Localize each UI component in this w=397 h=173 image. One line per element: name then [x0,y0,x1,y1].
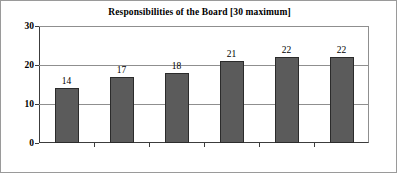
bar-chart-figure: Responsibilities of the Board [30 maximu… [0,0,397,173]
bar-slot[interactable]: 22 [314,26,369,143]
bar-value-label: 17 [117,65,127,75]
bar-value-label: 14 [62,76,72,86]
bar-slot[interactable]: 21 [204,26,259,143]
y-tick-label-20: 20 [0,60,34,70]
bar-value-label: 21 [227,49,237,59]
chart-title: Responsibilities of the Board [30 maximu… [1,7,397,17]
y-tick-label-30: 30 [0,21,34,31]
bar-slot[interactable]: 22 [259,26,314,143]
bar[interactable] [330,57,354,143]
x-tick-mark [204,143,205,147]
bar[interactable] [55,88,79,143]
x-tick-mark [149,143,150,147]
x-tick-mark [314,143,315,147]
bar[interactable] [220,61,244,143]
bar-series: 141718212222 [39,26,369,143]
y-tick-label-0: 0 [0,138,34,148]
bar[interactable] [110,77,134,143]
y-tick-label-10: 10 [0,99,34,109]
bar[interactable] [165,73,189,143]
bar-slot[interactable]: 14 [39,26,94,143]
y-tick-mark-0 [35,143,39,144]
plot-area: 0102030 141718212222 SenegalMauritiusGha… [39,26,369,143]
x-tick-mark [259,143,260,147]
bar-value-label: 22 [337,45,347,55]
bar[interactable] [275,57,299,143]
bar-value-label: 22 [282,45,292,55]
bar-value-label: 18 [172,61,182,71]
bar-slot[interactable]: 17 [94,26,149,143]
bar-slot[interactable]: 18 [149,26,204,143]
x-tick-mark [94,143,95,147]
